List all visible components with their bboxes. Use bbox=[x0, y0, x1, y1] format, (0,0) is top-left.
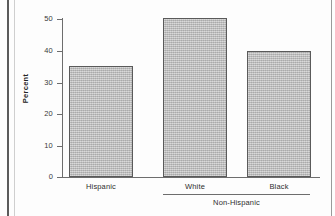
group-bracket-line bbox=[163, 194, 310, 195]
bar-hispanic bbox=[69, 66, 133, 177]
group-label-non-hispanic: Non-Hispanic bbox=[163, 198, 310, 207]
y-tick-50 bbox=[57, 19, 62, 20]
y-tick-label-40: 40 bbox=[13, 47, 53, 55]
bar-black bbox=[247, 51, 311, 177]
x-axis-line bbox=[62, 177, 320, 178]
x-label-black: Black bbox=[247, 183, 311, 191]
bar-white bbox=[163, 18, 227, 177]
y-tick-0 bbox=[57, 177, 62, 178]
y-tick-label-50: 50 bbox=[13, 15, 53, 23]
y-tick-40 bbox=[57, 51, 62, 52]
x-label-white: White bbox=[163, 183, 227, 191]
y-tick-30 bbox=[57, 83, 62, 84]
y-tick-label-20: 20 bbox=[13, 110, 53, 118]
y-tick-10 bbox=[57, 146, 62, 147]
x-label-hispanic: Hispanic bbox=[69, 183, 133, 191]
y-axis-line bbox=[62, 18, 63, 178]
bar-chart-figure: Percent 50 40 30 20 10 0 Hispanic White … bbox=[0, 0, 335, 216]
y-tick-label-10: 10 bbox=[13, 142, 53, 150]
y-tick-label-30: 30 bbox=[13, 79, 53, 87]
y-tick-label-0: 0 bbox=[13, 173, 53, 181]
plot-area: Percent 50 40 30 20 10 0 Hispanic White … bbox=[0, 0, 335, 216]
y-tick-20 bbox=[57, 114, 62, 115]
